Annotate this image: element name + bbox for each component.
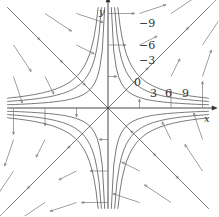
y-axis-label: y bbox=[99, 6, 105, 17]
gradient-vector bbox=[5, 140, 14, 166]
gradient-vector bbox=[0, 203, 14, 217]
gradient-vector bbox=[203, 0, 219, 14]
gradient-vector bbox=[113, 194, 139, 203]
level-label: 3 bbox=[150, 88, 157, 99]
gradient-vector bbox=[45, 14, 71, 32]
level-label: −3 bbox=[139, 55, 155, 66]
gradient-vector bbox=[68, 140, 77, 149]
gradient-vector bbox=[171, 0, 197, 13]
gradient-vector bbox=[27, 171, 45, 189]
gradient-vector bbox=[185, 145, 203, 171]
x-axis-label: x bbox=[204, 113, 210, 124]
gradient-vector bbox=[59, 171, 77, 180]
level-label: 9 bbox=[182, 88, 189, 99]
gradient-vector bbox=[36, 140, 45, 158]
level-curve-diagram: y x −9−6−30369 bbox=[0, 0, 218, 216]
gradient-vector bbox=[203, 19, 219, 45]
gradient-vector bbox=[14, 14, 40, 40]
gradient-vector bbox=[50, 203, 76, 212]
gradient-vector bbox=[171, 59, 180, 77]
gradient-vector bbox=[14, 77, 23, 103]
gradient-vector bbox=[0, 171, 13, 197]
level-label: 0 bbox=[134, 77, 141, 88]
plot-area bbox=[0, 0, 218, 216]
gradient-vector bbox=[140, 5, 166, 14]
level-label: −9 bbox=[139, 18, 155, 29]
gradient-vector bbox=[194, 113, 203, 139]
gradient-vector bbox=[153, 153, 171, 171]
level-label: 6 bbox=[165, 88, 172, 99]
gradient-vector bbox=[171, 27, 189, 45]
level-label: −6 bbox=[139, 40, 155, 51]
gradient-vector bbox=[145, 185, 171, 203]
gradient-vector bbox=[45, 45, 63, 63]
gradient-vector bbox=[19, 203, 45, 217]
gradient-vector bbox=[14, 45, 32, 71]
gradient-vector bbox=[176, 176, 202, 202]
gradient-vector bbox=[203, 50, 212, 76]
